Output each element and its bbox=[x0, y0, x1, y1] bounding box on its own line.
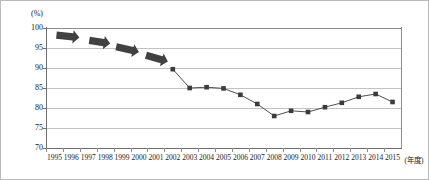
x-tick-mark-2008 bbox=[266, 148, 267, 152]
y-tick-label-95: 95 bbox=[25, 44, 43, 52]
gridline-80 bbox=[46, 108, 401, 109]
x-tick-mark-2004 bbox=[198, 148, 199, 152]
x-tick-mark-1996 bbox=[63, 148, 64, 152]
plot-area bbox=[46, 28, 401, 148]
y-tick-label-75: 75 bbox=[25, 124, 43, 132]
x-tick-mark-2013 bbox=[350, 148, 351, 152]
y-tick-label-70: 70 bbox=[25, 144, 43, 152]
y-tick-label-80: 80 bbox=[25, 104, 43, 112]
x-tick-mark-2009 bbox=[283, 148, 284, 152]
x-tick-mark-2015 bbox=[384, 148, 385, 152]
x-tick-mark-2000 bbox=[131, 148, 132, 152]
x-tick-mark-1997 bbox=[80, 148, 81, 152]
y-tick-mark-100 bbox=[43, 28, 46, 29]
gridline-95 bbox=[46, 48, 401, 49]
gridline-75 bbox=[46, 128, 401, 129]
x-tick-mark-1995 bbox=[46, 148, 47, 152]
x-tick-mark-1998 bbox=[97, 148, 98, 152]
gridline-85 bbox=[46, 88, 401, 89]
chart-figure: (%) 100959085807570 19951996199719981999… bbox=[0, 0, 429, 180]
x-axis-line bbox=[46, 148, 402, 149]
y-tick-mark-95 bbox=[43, 48, 46, 49]
x-tick-mark-2010 bbox=[300, 148, 301, 152]
x-axis-unit-label: (年度) bbox=[405, 154, 424, 165]
y-axis-line bbox=[46, 27, 47, 149]
x-tick-mark-2007 bbox=[249, 148, 250, 152]
y-axis-unit-label: (%) bbox=[31, 9, 43, 18]
y-tick-mark-90 bbox=[43, 68, 46, 69]
y-tick-label-100: 100 bbox=[25, 24, 43, 32]
x-tick-mark-2014 bbox=[367, 148, 368, 152]
y-tick-mark-75 bbox=[43, 128, 46, 129]
y-tick-label-90: 90 bbox=[25, 64, 43, 72]
y-tick-label-85: 85 bbox=[25, 84, 43, 92]
x-tick-mark-2005 bbox=[215, 148, 216, 152]
x-tick-mark-2011 bbox=[316, 148, 317, 152]
plot-right-border bbox=[401, 27, 402, 149]
x-tick-mark-2012 bbox=[333, 148, 334, 152]
x-tick-mark-2001 bbox=[147, 148, 148, 152]
gridline-90 bbox=[46, 68, 401, 69]
gridline-100 bbox=[46, 28, 401, 29]
x-tick-mark-2006 bbox=[232, 148, 233, 152]
x-tick-mark-2003 bbox=[181, 148, 182, 152]
y-tick-mark-80 bbox=[43, 108, 46, 109]
x-tick-mark-2002 bbox=[164, 148, 165, 152]
y-tick-mark-85 bbox=[43, 88, 46, 89]
x-tick-mark-1999 bbox=[114, 148, 115, 152]
